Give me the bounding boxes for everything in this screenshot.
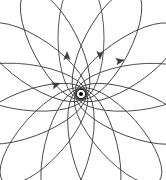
rosette-orbit-chart (0, 0, 166, 180)
focus-dot (79, 92, 83, 96)
figure-root (0, 0, 166, 180)
center-focus-marker (76, 89, 85, 98)
